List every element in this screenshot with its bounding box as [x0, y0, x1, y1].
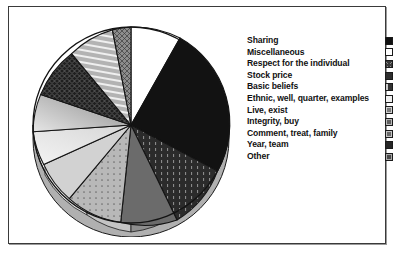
legend-item-year-team[interactable]: Year, team [247, 139, 393, 151]
chart-legend: Sharing Miscellaneous Respect for the in… [247, 35, 393, 163]
pie-chart-svg [27, 21, 235, 237]
legend-label: Basic beliefs [247, 81, 298, 93]
legend-label: Comment, treat, family [247, 128, 337, 140]
legend-item-integrity-buy[interactable]: Integrity, buy [247, 116, 393, 128]
legend-swatch-icon [385, 141, 393, 149]
legend-swatch-icon [385, 95, 393, 103]
legend-item-comment-treat-family[interactable]: Comment, treat, family [247, 128, 393, 140]
legend-item-live-exist[interactable]: Live, exist [247, 105, 393, 117]
legend-label: Miscellaneous [247, 47, 304, 59]
legend-label: Stock price [247, 70, 292, 82]
legend-label: Live, exist [247, 105, 287, 117]
legend-swatch-icon [385, 106, 393, 114]
legend-swatch-icon [385, 37, 393, 45]
legend-item-stock-price[interactable]: Stock price [247, 70, 393, 82]
legend-swatch-icon [385, 130, 393, 138]
legend-item-other[interactable]: Other [247, 151, 393, 163]
legend-item-miscellaneous[interactable]: Miscellaneous [247, 47, 393, 59]
legend-swatch-icon [385, 153, 393, 161]
legend-swatch-icon [385, 48, 393, 56]
legend-label: Ethnic, well, quarter, examples [247, 93, 369, 105]
pie-chart [27, 21, 235, 237]
legend-item-ethnic-well-quarter-examples[interactable]: Ethnic, well, quarter, examples [247, 93, 393, 105]
legend-label: Integrity, buy [247, 116, 299, 128]
chart-page: Sharing Miscellaneous Respect for the in… [0, 0, 396, 254]
legend-swatch-icon [385, 60, 393, 68]
legend-label: Respect for the individual [247, 58, 349, 70]
legend-label: Sharing [247, 35, 278, 47]
legend-item-sharing[interactable]: Sharing [247, 35, 393, 47]
legend-item-basic-beliefs[interactable]: Basic beliefs [247, 81, 393, 93]
legend-label: Other [247, 151, 269, 163]
legend-swatch-icon [385, 83, 393, 91]
legend-label: Year, team [247, 139, 289, 151]
chart-frame: Sharing Miscellaneous Respect for the in… [8, 6, 386, 244]
legend-swatch-icon [385, 72, 393, 80]
legend-item-respect-for-the-individual[interactable]: Respect for the individual [247, 58, 393, 70]
legend-swatch-icon [385, 118, 393, 126]
